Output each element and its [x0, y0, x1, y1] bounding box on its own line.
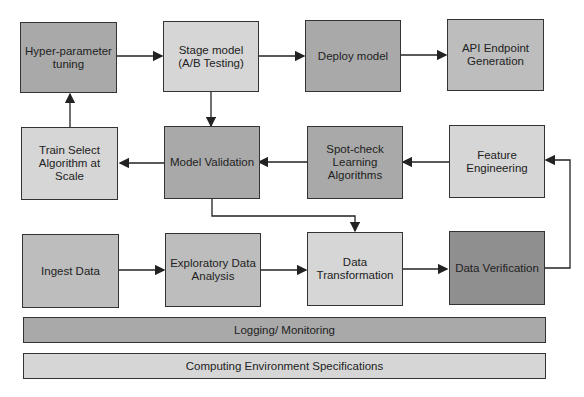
node-exploratory-data-analysis: Exploratory Data Analysis — [165, 233, 261, 307]
node-deploy-model: Deploy model — [305, 20, 401, 92]
node-feature-engineering: Feature Engineering — [449, 125, 545, 198]
node-ingest-data: Ingest Data — [22, 234, 119, 308]
node-train-select: Train Select Algorithm at Scale — [21, 127, 118, 200]
node-api-endpoint: API Endpoint Generation — [447, 19, 544, 91]
node-hyperparameter-tuning: Hyper-parameter tuning — [20, 22, 117, 93]
node-stage-model: Stage model (A/B Testing) — [163, 21, 259, 92]
node-data-transformation: Data Transformation — [307, 232, 403, 306]
node-model-validation: Model Validation — [164, 126, 260, 199]
bar-logging-monitoring: Logging/ Monitoring — [23, 317, 546, 343]
node-spot-check: Spot-check Learning Algorithms — [307, 126, 403, 199]
bar-computing-environment: Computing Environment Specifications — [23, 353, 546, 379]
node-data-verification: Data Verification — [449, 231, 545, 305]
